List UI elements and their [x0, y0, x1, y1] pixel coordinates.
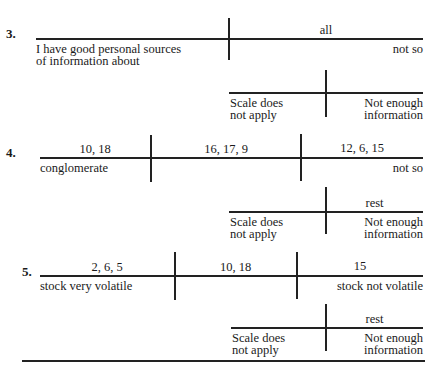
- right-anchor-label: stock not volatile: [300, 279, 423, 293]
- bottom-rule: [22, 360, 425, 362]
- segment-value: all: [229, 23, 423, 37]
- right-anchor-label: not so: [300, 42, 423, 56]
- segment-value: 10, 18: [175, 260, 296, 274]
- segment-value: 15: [297, 259, 423, 273]
- not-enough-info-line2: information: [326, 227, 423, 241]
- segment-value: 12, 6, 15: [301, 141, 423, 155]
- item-number: 5.: [22, 264, 32, 280]
- segment-value: 2, 6, 5: [40, 260, 174, 274]
- left-anchor-label: stock very volatile: [40, 279, 132, 293]
- item-number: 3.: [6, 26, 16, 42]
- not-enough-info-line2: information: [326, 343, 423, 357]
- segment-value: 16, 17, 9: [151, 142, 301, 156]
- scale-does-not-apply-line2: not apply: [230, 108, 277, 122]
- not-enough-info-value: rest: [326, 196, 423, 210]
- scale-line: [40, 157, 423, 159]
- scale-does-not-apply-line2: not apply: [230, 227, 277, 241]
- left-anchor-label: conglomerate: [40, 161, 108, 175]
- sub-scale-line: [231, 327, 423, 329]
- not-enough-info-line2: information: [326, 108, 423, 122]
- scale-line: [40, 275, 423, 277]
- left-anchor-label-line2: of information about: [36, 54, 139, 68]
- scale-does-not-apply-line2: not apply: [232, 343, 279, 357]
- item-number: 4.: [6, 145, 16, 161]
- segment-value: 10, 18: [40, 142, 150, 156]
- right-anchor-label: not so: [300, 161, 423, 175]
- not-enough-info-value: rest: [326, 312, 423, 326]
